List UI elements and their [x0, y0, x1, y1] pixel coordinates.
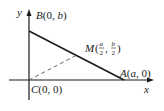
y-axis-arrow-icon: [27, 9, 32, 16]
svg-text:(: (: [95, 42, 99, 55]
svg-text:,: ,: [105, 42, 108, 54]
point-a-label: A(a, 0): [119, 67, 151, 80]
svg-text:b: b: [112, 40, 116, 48]
svg-text:2: 2: [112, 49, 116, 57]
point-c-label: C(0, 0): [31, 83, 63, 96]
point-b-label: B(0, b): [36, 9, 67, 22]
median-cm: [29, 56, 76, 81]
svg-text:M: M: [84, 42, 95, 54]
svg-text:): ): [117, 42, 121, 55]
x-axis-label: x: [143, 83, 149, 95]
right-triangle-diagram: y x B(0, b) M ( a 2 , b 2 ) A(a, 0): [0, 0, 164, 111]
y-axis: y: [16, 6, 32, 100]
y-axis-label: y: [16, 6, 22, 18]
point-m-label: M ( a 2 , b 2 ): [84, 40, 121, 57]
svg-text:2: 2: [100, 49, 104, 57]
svg-text:a: a: [100, 40, 104, 48]
